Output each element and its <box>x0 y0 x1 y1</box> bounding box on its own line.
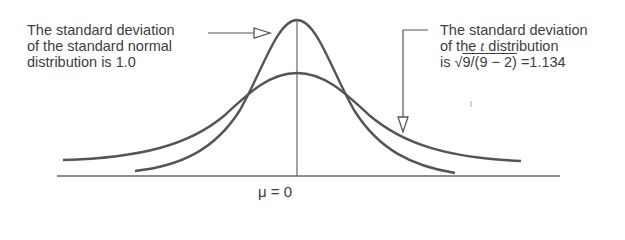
mean-label: μ = 0 <box>258 184 292 200</box>
annotation-line: The standard deviation <box>440 22 588 38</box>
normal-curve <box>135 20 455 173</box>
annotation-line: is √9/(9 − 2) =1.134 <box>440 54 588 70</box>
annotation-line: The standard deviation <box>27 22 175 38</box>
text: distribution <box>484 38 558 54</box>
normal-sd-annotation: The standard deviation of the standard n… <box>27 22 175 70</box>
right-arrow-head-icon <box>398 117 408 132</box>
text: is <box>440 54 455 70</box>
right-arrow-shaft <box>403 30 428 118</box>
annotation-line: of the t distribution <box>440 38 588 54</box>
left-arrow-head-icon <box>254 28 270 38</box>
t-curve <box>63 73 521 161</box>
t-sd-annotation: The standard deviation of the t distribu… <box>440 22 588 70</box>
annotation-line: distribution is 1.0 <box>27 54 175 70</box>
annotation-line: of the standard normal <box>27 38 175 54</box>
radicand: 9/(9 − 2) <box>462 54 516 70</box>
text: =1.134 <box>517 54 566 70</box>
text: of the <box>440 38 480 54</box>
